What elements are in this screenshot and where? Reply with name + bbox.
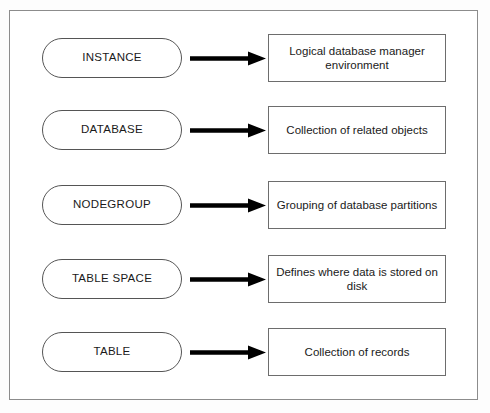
diagram-canvas: INSTANCE Logical database manager enviro…	[0, 0, 490, 413]
description-box-database: Collection of related objects	[268, 106, 446, 154]
right-arrow-icon	[190, 345, 266, 360]
term-label: TABLE	[93, 346, 130, 358]
description-text: Collection of related objects	[286, 123, 427, 137]
right-arrow-icon	[190, 272, 266, 287]
right-arrow-icon	[190, 51, 266, 66]
description-text: Collection of records	[305, 345, 410, 359]
term-capsule-nodegroup[interactable]: NODEGROUP	[42, 185, 182, 225]
diagram-row: TABLE SPACE Defines where data is stored…	[0, 251, 490, 307]
description-box-nodegroup: Grouping of database partitions	[268, 181, 446, 229]
term-capsule-instance[interactable]: INSTANCE	[42, 38, 182, 78]
diagram-row: DATABASE Collection of related objects	[0, 102, 490, 158]
right-arrow-icon	[190, 123, 266, 138]
term-capsule-database[interactable]: DATABASE	[42, 110, 182, 150]
description-box-table: Collection of records	[268, 328, 446, 376]
term-label: NODEGROUP	[73, 199, 151, 211]
description-box-instance: Logical database manager environment	[268, 34, 446, 82]
diagram-row: TABLE Collection of records	[0, 324, 490, 380]
description-text: Defines where data is stored on disk	[275, 265, 439, 294]
description-box-table-space: Defines where data is stored on disk	[268, 255, 446, 303]
description-text: Logical database manager environment	[275, 44, 439, 73]
term-capsule-table-space[interactable]: TABLE SPACE	[42, 259, 182, 299]
term-label: DATABASE	[81, 124, 143, 136]
diagram-row: NODEGROUP Grouping of database partition…	[0, 177, 490, 233]
description-text: Grouping of database partitions	[277, 198, 437, 212]
right-arrow-icon	[190, 198, 266, 213]
term-label: TABLE SPACE	[72, 273, 152, 285]
term-capsule-table[interactable]: TABLE	[42, 332, 182, 372]
term-label: INSTANCE	[82, 52, 142, 64]
diagram-row: INSTANCE Logical database manager enviro…	[0, 30, 490, 86]
